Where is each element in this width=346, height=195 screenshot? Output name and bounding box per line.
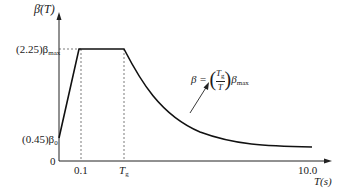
origin-label: 0 <box>50 156 56 167</box>
y-tick-top: (2.25)βmax <box>16 44 60 57</box>
y-tick-low: (0.45)β0 <box>22 134 58 147</box>
x-axis-arrow-icon <box>324 159 332 164</box>
x-tick-ts: Tg <box>119 165 129 178</box>
x-axis-label: T(s) <box>314 176 332 187</box>
y-axis-arrow-icon <box>57 12 62 20</box>
spectrum-curve <box>59 49 312 147</box>
y-axis-label: β̄(T) <box>34 3 55 15</box>
x-tick-0.1: 0.1 <box>74 165 88 176</box>
formula-annotation: β = (TgT)βmax <box>191 66 249 92</box>
